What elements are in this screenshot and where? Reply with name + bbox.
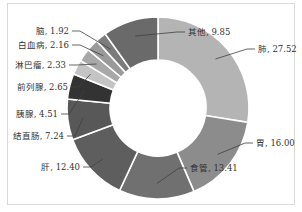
data-label: 前列腺, 2.65 [17, 82, 68, 92]
donut-chart: 肺, 27.52胃, 16.00食管, 13.41肝, 12.40结直肠, 7.… [0, 0, 302, 212]
data-label: 结直肠, 7.24 [13, 131, 64, 141]
data-label: 食管, 13.41 [190, 163, 238, 173]
data-label: 脑, 1.92 [36, 26, 69, 36]
data-label: 胃, 16.00 [256, 138, 295, 148]
data-label: 白血病, 2.16 [18, 40, 69, 50]
data-label: 胰腺, 4.51 [16, 109, 58, 119]
data-label: 淋巴瘤, 2.33 [15, 60, 66, 70]
data-label: 肺, 27.52 [258, 44, 297, 54]
data-label: 其他, 9.85 [188, 27, 230, 37]
data-label: 肝, 12.40 [41, 162, 80, 172]
